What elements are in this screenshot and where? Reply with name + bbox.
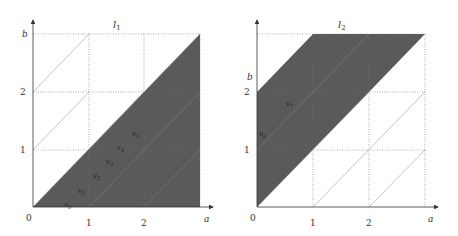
x-tick-1-l1: 1 (86, 218, 92, 228)
diagram-canvas: l1 b a 0 1 2 1 2 v0 v1 v2 v3 v4 v5 (0, 0, 458, 236)
x-tick-2-l1: 2 (141, 218, 147, 228)
y-tick-1-l2: 1 (244, 145, 250, 155)
y-tick-2-l2: 2 (244, 87, 250, 97)
y-tick-2-l1: 2 (20, 87, 26, 97)
y-axis-label-l2: b (247, 72, 253, 82)
origin-label-l1: 0 (26, 213, 32, 223)
title-l2: l2 (338, 19, 346, 32)
x-axis-label-l1: a (204, 214, 209, 224)
y-axis-label-l1: b (22, 29, 28, 39)
x-axis-label-l2: a (428, 214, 433, 224)
origin-label-l2: 0 (250, 213, 256, 223)
x-tick-2-l2: 2 (366, 218, 372, 228)
title-l1: l1 (113, 19, 121, 32)
diagram-l1: l1 b a 0 1 2 1 2 v0 v1 v2 v3 v4 v5 (20, 19, 213, 228)
y-tick-1-l1: 1 (20, 145, 26, 155)
diagram-l2: l2 b a 0 1 2 1 2 v6 v7 (244, 19, 438, 228)
x-tick-1-l2: 1 (310, 218, 316, 228)
